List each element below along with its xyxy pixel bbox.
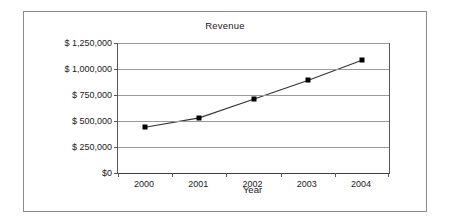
x-tick-mark bbox=[388, 173, 389, 177]
y-tick-label: $ 250,000 bbox=[72, 142, 112, 152]
y-axis-labels: $ 1,250,000$ 1,000,000$ 750,000$ 500,000… bbox=[24, 43, 112, 173]
x-tick-mark bbox=[281, 173, 282, 177]
x-tick-mark bbox=[118, 173, 119, 177]
x-tick-mark bbox=[226, 173, 227, 177]
y-tick-label: $ 750,000 bbox=[72, 90, 112, 100]
y-tick-label: $ 1,250,000 bbox=[64, 38, 112, 48]
x-axis-labels: 20002001200220032004 bbox=[117, 43, 388, 173]
x-tick-mark bbox=[172, 173, 173, 177]
revenue-line-chart: Revenue $ 1,250,000$ 1,000,000$ 750,000$… bbox=[24, 12, 426, 211]
y-tick-label: $ 1,000,000 bbox=[64, 64, 112, 74]
chart-frame: Revenue $ 1,250,000$ 1,000,000$ 750,000$… bbox=[23, 11, 427, 212]
x-tick-mark bbox=[335, 173, 336, 177]
y-tick-label: $ 500,000 bbox=[72, 116, 112, 126]
x-axis-title: Year bbox=[117, 184, 388, 195]
chart-title: Revenue bbox=[24, 20, 426, 31]
y-tick-label: $0 bbox=[102, 168, 112, 178]
